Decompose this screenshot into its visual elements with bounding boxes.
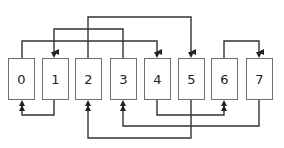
edge-1-to-0 — [22, 100, 54, 115]
edge-6-to-7 — [224, 41, 259, 58]
node-label: 6 — [220, 72, 228, 87]
node-6: 6 — [211, 58, 238, 100]
node-label: 4 — [153, 72, 161, 87]
node-4: 4 — [144, 58, 171, 100]
node-label: 2 — [84, 72, 92, 87]
edge-0-to-4 — [22, 41, 157, 58]
node-label: 1 — [51, 72, 59, 87]
node-label: 0 — [17, 72, 25, 87]
node-label: 5 — [187, 72, 195, 87]
edge-2-to-5 — [88, 17, 191, 58]
node-label: 7 — [255, 72, 263, 87]
node-2: 2 — [75, 58, 102, 100]
node-3: 3 — [110, 58, 137, 100]
edge-5-to-2 — [88, 100, 191, 138]
node-5: 5 — [178, 58, 205, 100]
node-0: 0 — [8, 58, 35, 100]
node-7: 7 — [246, 58, 273, 100]
node-1: 1 — [42, 58, 69, 100]
node-label: 3 — [119, 72, 127, 87]
